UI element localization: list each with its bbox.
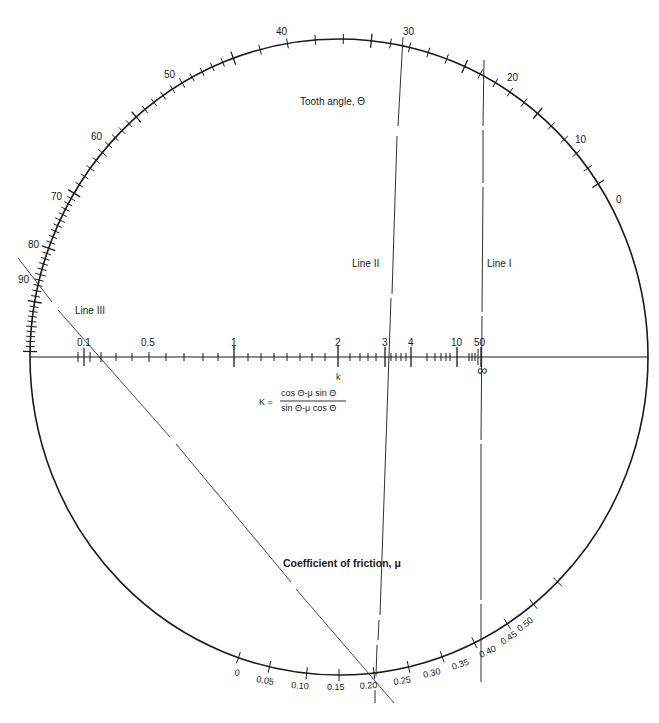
k-label-10: 10: [451, 337, 463, 348]
k-formula: K = cos Θ-μ sin Θ sin Θ-μ cos Θ: [259, 388, 346, 413]
theta-label-70: 70: [51, 191, 63, 202]
formula-denominator: sin Θ-μ cos Θ: [281, 403, 336, 413]
k-label-50: 50: [474, 337, 486, 348]
line-2: [375, 37, 403, 703]
mu-label-0.05: 0.05: [256, 674, 275, 687]
mu-scale-labels: 0 0.05 0.10 0.15 0.20 0.25 0.30 0.35 0.4…: [234, 615, 536, 692]
k-label-0.1: 0.1: [77, 337, 91, 348]
theta-label-20: 20: [507, 72, 519, 83]
k-label-0.5: 0.5: [141, 337, 155, 348]
mu-label-0.50: 0.50: [515, 615, 535, 634]
mu-label-0.30: 0.30: [422, 666, 441, 680]
theta-label-60: 60: [91, 131, 103, 142]
line-3: [18, 258, 394, 703]
k-label-2: 2: [335, 337, 341, 348]
mu-label-0.25: 0.25: [393, 674, 412, 687]
mu-label-0.20: 0.20: [359, 680, 377, 691]
mu-label-0.10: 0.10: [291, 680, 309, 691]
formula-numerator: cos Θ-μ sin Θ: [281, 388, 336, 398]
theta-label-40: 40: [276, 26, 288, 37]
theta-label-90: 90: [18, 274, 30, 285]
theta-label-80: 80: [28, 239, 40, 250]
k-label-1: 1: [231, 337, 237, 348]
mu-scale-title: Coefficient of friction, μ: [283, 557, 401, 569]
line-1-label: Line I: [487, 258, 511, 269]
theta-label-0: 0: [616, 194, 622, 205]
nomogram-diagram: 0 10 20 30 40 50 60 70 80 90 Tooth angle…: [0, 0, 659, 723]
theta-label-30: 30: [403, 26, 415, 37]
mu-label-0.45: 0.45: [499, 629, 519, 647]
mu-label-0.35: 0.35: [450, 657, 470, 672]
k-scale-labels: 0.1 0.5 1 2 3 4 10 50 ∞ k: [77, 337, 487, 382]
line-2-label: Line II: [352, 258, 379, 269]
mu-label-0.15: 0.15: [327, 682, 345, 692]
k-label-3: 3: [382, 337, 388, 348]
theta-scale-title: Tooth angle, Θ: [300, 96, 365, 107]
mu-label-0: 0: [234, 667, 241, 678]
k-label-4: 4: [408, 337, 414, 348]
theta-scale-labels: 0 10 20 30 40 50 60 70 80 90: [18, 26, 622, 285]
formula-lhs: K =: [259, 397, 273, 407]
k-axis-label: k: [336, 372, 341, 382]
line-3-label: Line III: [75, 305, 105, 316]
theta-label-50: 50: [164, 69, 176, 80]
theta-label-10: 10: [575, 134, 587, 145]
